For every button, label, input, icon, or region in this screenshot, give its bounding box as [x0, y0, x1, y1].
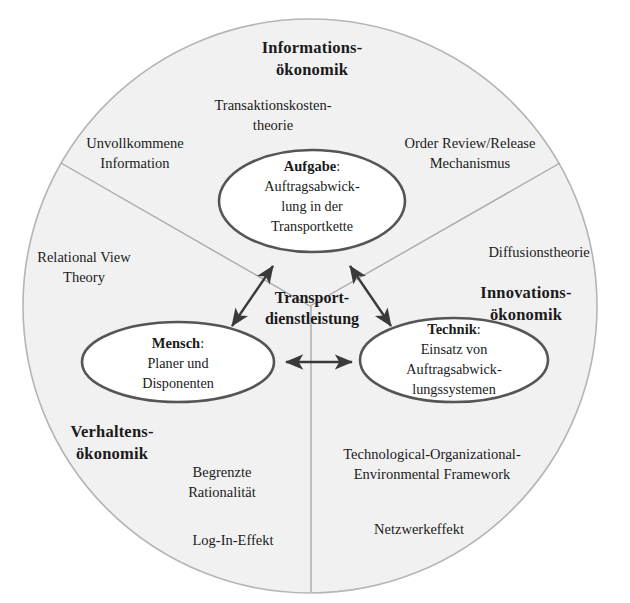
- theory-line-1: Unvollkommene: [86, 135, 183, 151]
- node-mensch-line-2: Disponenten: [142, 375, 214, 391]
- theory-line-1: Netzwerkeffekt: [374, 521, 464, 537]
- theory-label-netzwerkeffekt: Netzwerkeffekt: [374, 521, 464, 537]
- node-aufgabe-line-1: Auftragsabwick-: [264, 178, 360, 194]
- theory-label-log-in-effekt: Log-In-Effekt: [192, 532, 273, 548]
- theory-line-2: theorie: [253, 117, 293, 133]
- node-mensch-title: Mensch: [152, 335, 200, 351]
- theory-line-1: Log-In-Effekt: [192, 532, 273, 548]
- theory-label-diffusionstheorie: Diffusionstheorie: [488, 244, 589, 260]
- theory-line-2: Theory: [63, 269, 106, 285]
- node-technik-line-3: lungssystemen: [412, 381, 496, 397]
- node-aufgabe-line-2: lung in der: [281, 198, 343, 214]
- node-technik-line-2: Auftragsabwick-: [406, 361, 502, 377]
- region-title-line-1: Innovations-: [480, 283, 571, 302]
- region-title-line-2: ökonomik: [490, 305, 563, 324]
- center-label-line-1: Transport-: [275, 289, 349, 307]
- theory-line-2: Rationalität: [188, 484, 256, 500]
- theory-line-1: Transaktionskosten-: [214, 97, 331, 113]
- diagram-canvas: Informations- ökonomik Innovations- ökon…: [0, 0, 630, 603]
- node-technik-title-row: Technik:: [427, 321, 480, 337]
- diagram-root: Informations- ökonomik Innovations- ökon…: [0, 0, 630, 603]
- node-technik-line-1: Einsatz von: [421, 341, 488, 357]
- theory-line-1: Begrenzte: [193, 464, 252, 480]
- node-aufgabe-title: Aufgabe: [284, 158, 337, 174]
- node-aufgabe-colon: :: [336, 158, 340, 174]
- center-label-line-2: dienstleistung: [265, 310, 359, 328]
- node-mensch[interactable]: Mensch: Planer und Disponenten: [82, 322, 274, 402]
- node-technik-title: Technik: [427, 321, 477, 337]
- theory-line-1: Order Review/Release: [405, 135, 536, 151]
- region-title-line-2: ökonomik: [76, 444, 149, 463]
- node-aufgabe-title-row: Aufgabe:: [284, 158, 340, 174]
- node-technik[interactable]: Technik: Einsatz von Auftragsabwick- lun…: [360, 318, 548, 402]
- region-title-line-1: Informations-: [262, 38, 363, 57]
- node-mensch-colon: :: [200, 335, 204, 351]
- theory-line-2: Mechanismus: [430, 155, 511, 171]
- node-aufgabe-line-3: Transportkette: [271, 218, 353, 234]
- region-title-line-1: Verhaltens-: [70, 422, 153, 441]
- theory-line-1: Relational View: [37, 249, 131, 265]
- theory-line-1: Diffusionstheorie: [488, 244, 589, 260]
- node-technik-colon: :: [477, 321, 481, 337]
- node-mensch-title-row: Mensch:: [152, 335, 204, 351]
- node-mensch-line-1: Planer und: [147, 355, 208, 371]
- theory-line-1: Technological-Organizational-: [343, 446, 521, 462]
- theory-line-2: Information: [100, 155, 170, 171]
- theory-line-2: Environmental Framework: [354, 466, 511, 482]
- node-aufgabe[interactable]: Aufgabe: Auftragsabwick- lung in der Tra…: [219, 150, 405, 252]
- region-title-line-2: ökonomik: [276, 60, 349, 79]
